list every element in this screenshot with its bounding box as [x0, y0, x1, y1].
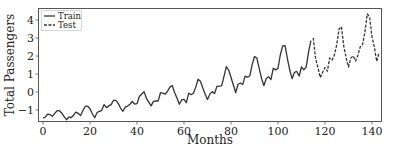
y-tick-label: 2 — [27, 50, 34, 63]
series-train-line — [43, 41, 311, 120]
x-tick-label: 0 — [40, 125, 47, 138]
y-tick-label: 1 — [27, 68, 34, 81]
legend: Train Test — [42, 11, 82, 31]
x-axis-label: Months — [187, 133, 233, 147]
x-tick-label: 140 — [362, 125, 383, 138]
plot-area — [39, 9, 382, 122]
y-tick-label: 0 — [27, 86, 34, 99]
series-layer — [43, 14, 379, 120]
plot-frame — [39, 9, 382, 122]
y-tick-label: 4 — [27, 14, 34, 27]
x-tick-label: 40 — [130, 125, 144, 138]
y-axis-label: Total Passengers — [3, 14, 17, 116]
y-tick-label: −1 — [18, 104, 34, 117]
legend-test-label: Test — [58, 20, 76, 30]
y-axis: −101234 — [18, 14, 39, 117]
x-tick-label: 100 — [268, 125, 289, 138]
series-test-line — [313, 14, 379, 78]
y-tick-label: 3 — [27, 32, 34, 45]
line-chart: 020406080100120140 −101234 Months Total … — [0, 0, 402, 150]
x-tick-label: 120 — [315, 125, 336, 138]
x-tick-label: 20 — [83, 125, 97, 138]
